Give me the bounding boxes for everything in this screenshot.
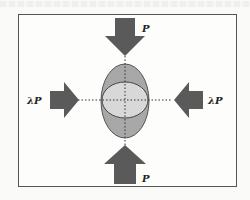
label-right-load: λP: [207, 95, 223, 106]
arrow-left-icon: [174, 82, 203, 118]
label-left-load: λP: [26, 95, 42, 106]
arrow-right-icon: [50, 82, 79, 118]
load-diagram: P P λP λP: [0, 0, 250, 200]
label-top-load: P: [141, 23, 150, 34]
arrow-down-icon: [105, 18, 145, 56]
arrow-up-icon: [104, 145, 146, 184]
diagram-canvas: P P λP λP: [0, 0, 250, 200]
label-bottom-load: P: [141, 173, 150, 184]
